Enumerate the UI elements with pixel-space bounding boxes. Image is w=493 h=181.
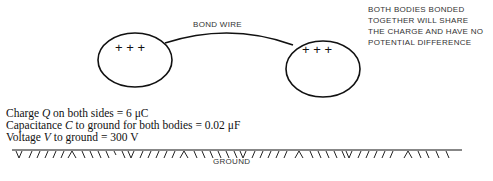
equation-charge: Charge Q on both sides = 6 μC xyxy=(6,107,240,119)
eq-text: to ground for both bodies = 0.02 μF xyxy=(73,119,241,131)
ground-label: GROUND xyxy=(213,157,250,166)
eq-var: C xyxy=(65,119,73,131)
eq-var: Q xyxy=(42,107,50,119)
left-charges: + + + xyxy=(115,40,145,55)
equation-voltage: Voltage V to ground = 300 V xyxy=(6,131,240,143)
note-line: THE CHARGE AND HAVE NO xyxy=(368,26,493,37)
bonding-note: BOTH BODIES BONDED TOGETHER WILL SHARE T… xyxy=(368,4,493,48)
eq-text: on both sides = 6 μC xyxy=(50,107,148,119)
equation-capacitance: Capacitance C to ground for both bodies … xyxy=(6,119,240,131)
eq-text: Voltage xyxy=(6,131,44,143)
bond-wire xyxy=(165,33,293,45)
eq-text: to ground = 300 V xyxy=(51,131,139,143)
note-line: TOGETHER WILL SHARE xyxy=(368,15,493,26)
note-line: BOTH BODIES BONDED xyxy=(368,4,493,15)
right-charges: + + + xyxy=(302,42,332,57)
note-line: POTENTIAL DIFFERENCE xyxy=(368,37,493,48)
eq-text: Charge xyxy=(6,107,42,119)
equations: Charge Q on both sides = 6 μC Capacitanc… xyxy=(6,107,240,143)
eq-text: Capacitance xyxy=(6,119,65,131)
eq-var: V xyxy=(44,131,51,143)
wire-label: BOND WIRE xyxy=(193,20,242,29)
